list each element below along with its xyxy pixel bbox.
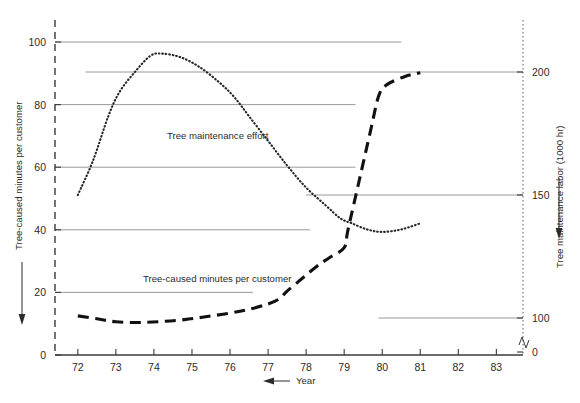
- right-tick-label-0: 0: [532, 346, 538, 358]
- x-tick-label-79: 79: [338, 361, 350, 373]
- right-axis-break-icon: [519, 337, 529, 348]
- x-tick-label-80: 80: [376, 361, 388, 373]
- x-axis-title: Year: [296, 375, 316, 386]
- axes-group: [55, 20, 523, 355]
- x-tick-label-78: 78: [300, 361, 312, 373]
- left-tick-label-20: 20: [34, 286, 46, 298]
- right-tick-label-150: 150: [532, 189, 550, 201]
- left-tick-label-40: 40: [34, 224, 46, 236]
- chart-figure: 7273747576777879808182831008060402002001…: [0, 0, 580, 403]
- x-tick-label-75: 75: [186, 361, 198, 373]
- chart-canvas: 7273747576777879808182831008060402002001…: [0, 0, 580, 403]
- x-tick-label-82: 82: [452, 361, 464, 373]
- right-tick-label-200: 200: [532, 66, 550, 78]
- x-tick-label-81: 81: [414, 361, 426, 373]
- series-dashed: [78, 73, 420, 323]
- left-tick-label-80: 80: [34, 99, 46, 111]
- x-tick-label-76: 76: [224, 361, 236, 373]
- left-axis-title: Tree-caused minutes per customer: [13, 101, 24, 250]
- annotation-tree-caused-minutes: Tree-caused minutes per customer: [143, 273, 292, 284]
- x-tick-label-83: 83: [491, 361, 503, 373]
- x-tick-label-74: 74: [148, 361, 160, 373]
- tick-marks-group: [55, 42, 523, 355]
- tick-labels-group: 7273747576777879808182831008060402002001…: [28, 36, 549, 373]
- x-tick-label-72: 72: [72, 361, 84, 373]
- left-axis-title-group: Tree-caused minutes per customer: [13, 101, 25, 325]
- annotation-tree-maintenance-effort: Tree maintenance effort: [167, 130, 269, 141]
- x-tick-label-73: 73: [110, 361, 122, 373]
- x-tick-label-77: 77: [262, 361, 274, 373]
- right-tick-label-100: 100: [532, 312, 550, 324]
- left-tick-label-60: 60: [34, 161, 46, 173]
- right-axis-title-group: Tree maintenance labor (1000 hr): [554, 125, 565, 268]
- left-tick-label-0: 0: [40, 349, 46, 361]
- left-tick-label-100: 100: [28, 36, 46, 48]
- x-axis-title-group: Year: [263, 375, 316, 386]
- left-axis-title-arrowhead: [19, 314, 26, 325]
- x-axis-title-arrowhead: [263, 378, 274, 385]
